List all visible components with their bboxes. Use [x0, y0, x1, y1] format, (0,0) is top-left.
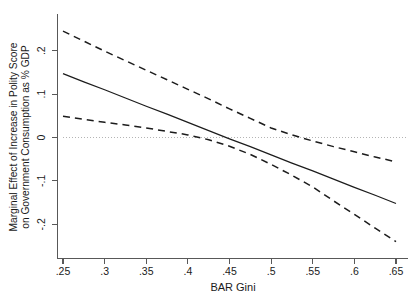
x-tick-label: .45 — [222, 265, 237, 277]
x-tick-label: .55 — [305, 265, 320, 277]
upper-confidence-band — [63, 31, 396, 162]
y-tick-label: 0 — [35, 134, 47, 140]
series-group — [63, 31, 396, 241]
marginal-effect-chart: .2.10-.1-.2 .25.3.35.4.45.5.55.6.65 BAR … — [0, 0, 414, 307]
marginal-effect-line — [63, 74, 396, 204]
y-axis-ticks: .2.10-.1-.2 — [35, 46, 58, 230]
x-tick-label: .25 — [56, 265, 71, 277]
x-tick-label: .35 — [139, 265, 154, 277]
x-tick-label: .5 — [267, 265, 276, 277]
y-tick-label: .2 — [35, 46, 47, 55]
lower-confidence-band — [63, 116, 396, 241]
x-tick-label: .6 — [350, 265, 359, 277]
x-axis-title: BAR Gini — [210, 281, 255, 293]
x-axis-ticks: .25.3.35.4.45.5.55.6.65 — [56, 259, 404, 278]
y-axis-title-line-1: Marginal Effect of Increase in Polity Sc… — [8, 42, 19, 231]
y-tick-label: -.1 — [35, 175, 47, 187]
axis-spines — [58, 14, 409, 259]
y-tick-label: -.2 — [35, 218, 47, 230]
y-tick-label: .1 — [35, 90, 47, 99]
y-axis-title-line-2: on Government Consumption as % GDP — [20, 45, 31, 229]
x-tick-label: .3 — [100, 265, 109, 277]
x-tick-label: .4 — [183, 265, 192, 277]
x-tick-label: .65 — [389, 265, 404, 277]
y-axis-title: Marginal Effect of Increase in Polity Sc… — [8, 42, 31, 231]
figure-container: .2.10-.1-.2 .25.3.35.4.45.5.55.6.65 BAR … — [0, 0, 414, 307]
